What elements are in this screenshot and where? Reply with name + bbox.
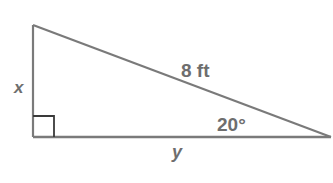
- label-x: x: [13, 78, 25, 97]
- right-angle-marker: [33, 116, 54, 137]
- hypotenuse: [33, 25, 331, 137]
- right-triangle-diagram: x 8 ft 20° y: [0, 0, 333, 183]
- label-y: y: [171, 142, 183, 162]
- label-hypotenuse: 8 ft: [181, 60, 210, 81]
- label-angle: 20°: [217, 114, 246, 135]
